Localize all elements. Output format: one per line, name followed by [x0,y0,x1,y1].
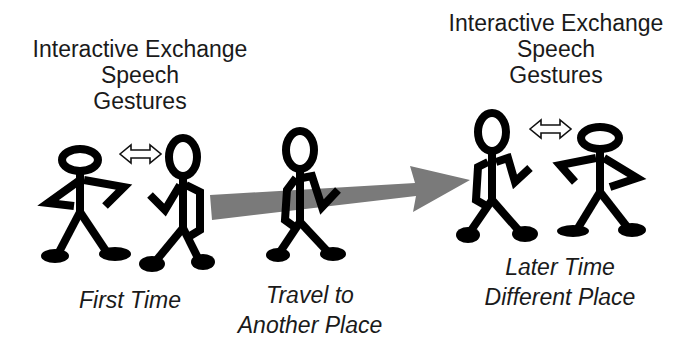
stick-figure-icon [470,113,530,232]
middle-caption: Travel to Another Place [220,282,400,338]
middle-caption-line-2: Another Place [220,312,400,338]
left-caption: First Time [40,287,220,313]
right-caption-line-2: Different Place [460,284,660,310]
stick-figure-icon [560,127,637,228]
stick-figure-icon [48,149,124,254]
middle-caption-line-1: Travel to [220,282,400,308]
right-caption-line-1: Later Time [460,254,660,280]
right-caption: Later Time Different Place [460,254,660,310]
double-headed-arrow-icon [530,120,571,138]
double-headed-arrow-icon [120,145,161,163]
